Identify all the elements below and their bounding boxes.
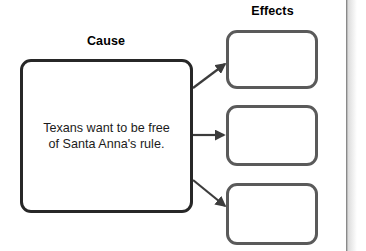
cause-heading: Cause [0,34,212,48]
cause-box-text: Texans want to be free of Santa Anna's r… [37,120,176,153]
diagram-canvas: Cause Effects Texans want to be free of … [0,0,366,251]
effect-box-1[interactable] [226,30,318,89]
effect-box-2[interactable] [226,105,318,166]
effects-heading: Effects [227,4,318,18]
effect-box-3[interactable] [226,183,318,245]
arrow-to-effect-3-icon [193,180,225,206]
cause-box[interactable]: Texans want to be free of Santa Anna's r… [20,59,193,213]
arrow-to-effect-1-icon [193,64,225,88]
page-edge-shadow [348,0,357,251]
